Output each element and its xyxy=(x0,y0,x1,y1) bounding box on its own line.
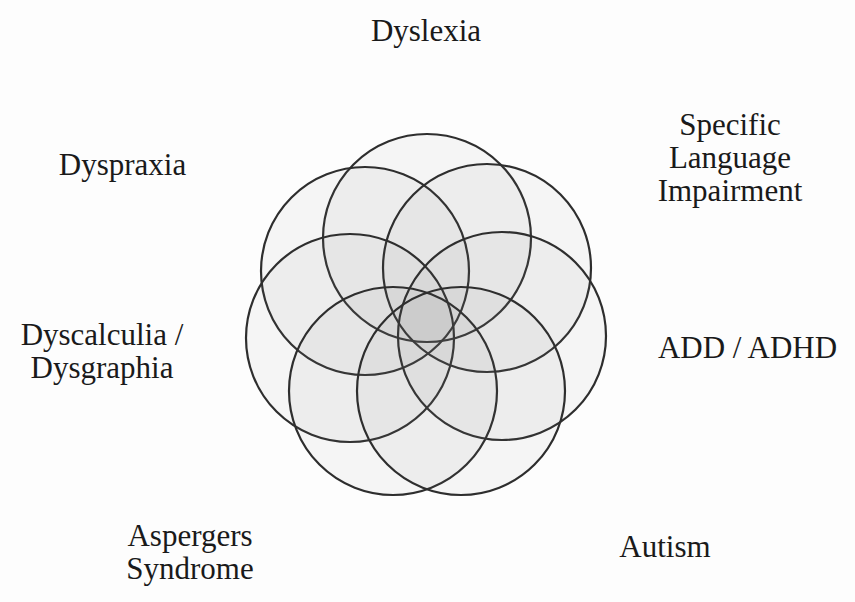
label-line: Dyspraxia xyxy=(40,148,205,181)
label-specific-language-impairment: Specific Language Impairment xyxy=(640,108,820,207)
label-aspergers-syndrome: Aspergers Syndrome xyxy=(105,519,275,585)
label-autism: Autism xyxy=(605,530,725,563)
label-dyslexia: Dyslexia xyxy=(366,14,486,47)
overlapping-circles xyxy=(0,0,855,602)
label-line: Dyscalculia / xyxy=(2,318,202,351)
label-line: Syndrome xyxy=(105,552,275,585)
label-line: Language xyxy=(640,141,820,174)
learning-difficulties-diagram: Dyslexia Specific Language Impairment Dy… xyxy=(0,0,855,602)
label-dyscalculia-dysgraphia: Dyscalculia / Dysgraphia xyxy=(2,318,202,384)
label-add-adhd: ADD / ADHD xyxy=(645,331,850,364)
label-line: Aspergers xyxy=(105,519,275,552)
label-line: Specific xyxy=(640,108,820,141)
label-line: Autism xyxy=(605,530,725,563)
label-line: Impairment xyxy=(640,174,820,207)
label-line: Dysgraphia xyxy=(2,351,202,384)
label-line: ADD / ADHD xyxy=(645,331,850,364)
label-dyspraxia: Dyspraxia xyxy=(40,148,205,181)
label-line: Dyslexia xyxy=(366,14,486,47)
circle-autism xyxy=(357,287,565,495)
